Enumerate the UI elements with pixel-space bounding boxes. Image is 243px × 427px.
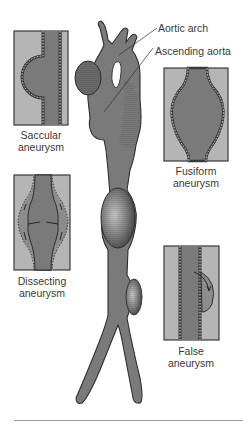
ascending-aorta-label: Ascending aorta — [155, 45, 231, 57]
saccular-panel — [14, 31, 68, 125]
fusiform-label: Fusiform aneurysm — [160, 165, 232, 189]
saccular-label-line2: aneurysm — [6, 141, 76, 153]
false-panel — [164, 246, 219, 340]
false-label: False aneurysm — [156, 345, 226, 369]
false-label-line1: False — [156, 345, 226, 357]
dissecting-label-line1: Dissecting — [6, 275, 78, 287]
aorta-illustration — [75, 21, 142, 403]
false-label-line2: aneurysm — [156, 357, 226, 369]
saccular-label-line1: Saccular — [6, 129, 76, 141]
fusiform-label-line1: Fusiform — [160, 165, 232, 177]
fusiform-panel — [164, 68, 228, 161]
dissecting-label: Dissecting aneurysm — [6, 275, 78, 299]
dissecting-label-line2: aneurysm — [6, 287, 78, 299]
dissecting-panel — [14, 175, 70, 270]
fusiform-label-line2: aneurysm — [160, 177, 232, 189]
aortic-arch-label: Aortic arch — [158, 22, 208, 34]
saccular-label: Saccular aneurysm — [6, 129, 76, 153]
bottom-rule — [14, 420, 243, 421]
